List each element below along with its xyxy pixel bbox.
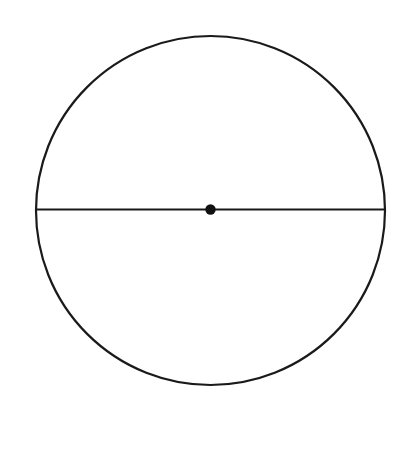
figure-canvas [0, 0, 396, 463]
background-rect [0, 0, 396, 463]
center-point-dot [205, 204, 215, 214]
circle-diagram-svg [0, 0, 396, 463]
